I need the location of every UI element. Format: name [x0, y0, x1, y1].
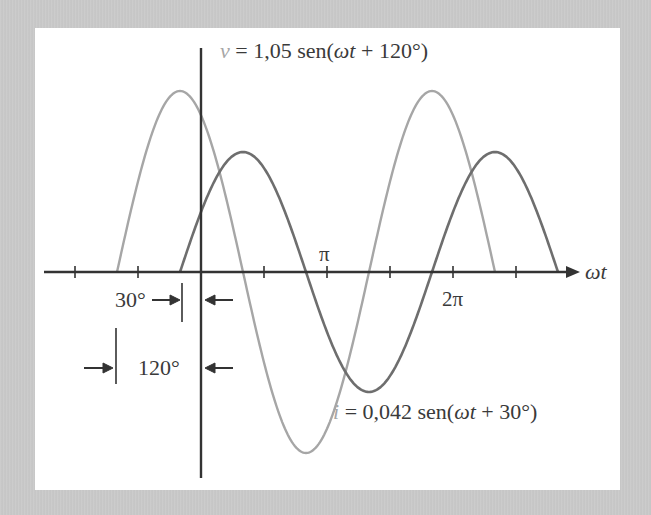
angle-label-30: 30° [115, 289, 146, 311]
arrow-left-icon [205, 295, 215, 305]
voltage-symbol: v [220, 38, 230, 63]
tick-label-pi: π [319, 244, 330, 265]
x-axis-arrowhead-icon [566, 266, 580, 278]
arrow-right-icon [170, 295, 180, 305]
angle-label-120: 120° [138, 357, 180, 379]
voltage-equation: v = 1,05 sen(ωt + 120°) [220, 40, 428, 62]
arrow-right-icon [103, 363, 113, 373]
x-axis-label: ωt [585, 261, 607, 283]
arrow-left-icon [205, 363, 215, 373]
current-equation: i = 0,042 sen(ωt + 30°) [333, 401, 537, 423]
tick-label-2pi: 2π [442, 289, 463, 310]
